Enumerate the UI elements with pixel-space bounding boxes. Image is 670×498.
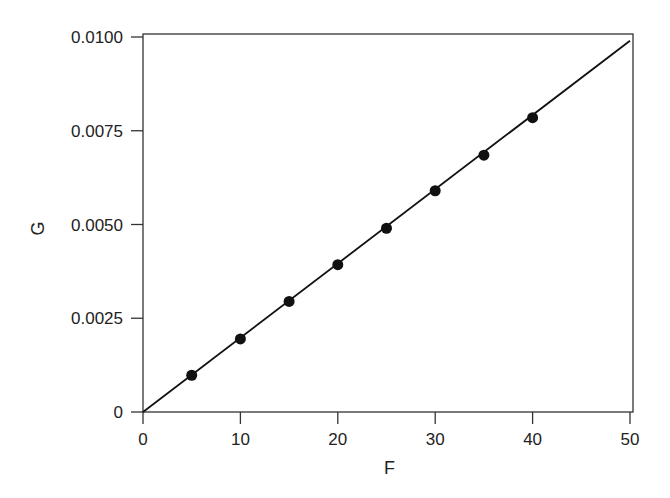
y-tick-label: 0.0050 [71,216,123,235]
y-tick-label: 0.0100 [71,28,123,47]
x-axis-title: F [384,458,395,478]
data-point [381,223,392,234]
x-tick-label: 50 [621,430,640,449]
y-tick-label: 0.0025 [71,309,123,328]
chart: 0102030405000.00250.00500.00750.0100FG [0,0,670,498]
data-point [284,296,295,307]
y-tick-label: 0 [114,403,123,422]
data-point [527,112,538,123]
x-tick-label: 0 [138,430,147,449]
x-tick-label: 30 [426,430,445,449]
data-point [235,333,246,344]
data-point [186,370,197,381]
x-tick-label: 40 [523,430,542,449]
y-tick-label: 0.0075 [71,122,123,141]
data-point [332,259,343,270]
data-point [430,185,441,196]
y-axis-title: G [28,221,48,235]
x-tick-label: 20 [328,430,347,449]
data-point [478,150,489,161]
x-tick-label: 10 [231,430,250,449]
